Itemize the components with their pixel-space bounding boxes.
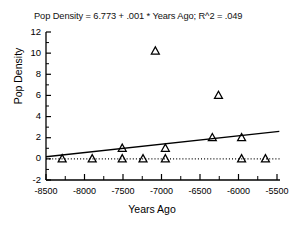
data-point-marker <box>214 91 222 98</box>
y-tick-label: 6 <box>15 89 41 100</box>
x-tick-label: -6500 <box>179 186 221 196</box>
regression-line <box>46 131 279 156</box>
data-point-marker <box>88 155 96 162</box>
y-tick-label: 10 <box>15 47 41 58</box>
x-tick-label: -7500 <box>102 186 144 196</box>
data-point-marker <box>238 155 246 162</box>
y-tick-label: 0 <box>15 152 41 163</box>
y-tick-label: 2 <box>15 131 41 142</box>
scatter-chart: Pop Density = 6.773 + .001 * Years Ago; … <box>0 0 304 226</box>
data-point-marker <box>151 47 159 54</box>
y-tick-label: -2 <box>15 174 41 185</box>
x-tick-label: -6000 <box>218 186 260 196</box>
x-tick-label: -5500 <box>256 186 298 196</box>
y-tick-label: 4 <box>15 110 41 121</box>
data-point-marker <box>161 144 169 151</box>
data-point-marker <box>139 155 147 162</box>
x-tick-label: -7000 <box>141 186 183 196</box>
fit-line <box>46 131 279 156</box>
y-tick-label: 8 <box>15 68 41 79</box>
y-tick-label: 12 <box>15 26 41 37</box>
data-point-marker <box>261 155 269 162</box>
data-point-marker <box>118 155 126 162</box>
x-tick-label: -8500 <box>25 186 67 196</box>
x-tick-label: -8000 <box>64 186 106 196</box>
data-point-marker <box>208 134 216 141</box>
data-point-marker <box>161 155 169 162</box>
